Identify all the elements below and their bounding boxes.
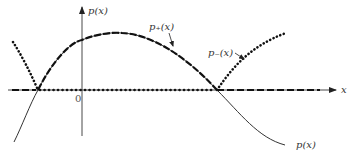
origin-label: 0 [75,93,81,104]
curve-p-plus [38,33,217,90]
p-minus-label: p₋(x) [208,47,233,58]
p-minus-pointer [235,53,244,59]
curve-p-minus-left [13,42,38,90]
p-plus-pointer [169,33,173,46]
function-diagram: p(x) x 0 p₊(x) p₋(x) p(x) [0,0,351,156]
p-label: p(x) [296,139,316,150]
p-plus-label: p₊(x) [149,21,174,32]
curve-p [14,33,285,145]
y-axis-label: p(x) [88,5,108,16]
curve-p-minus-right [217,33,286,90]
x-axis-label: x [341,84,347,95]
